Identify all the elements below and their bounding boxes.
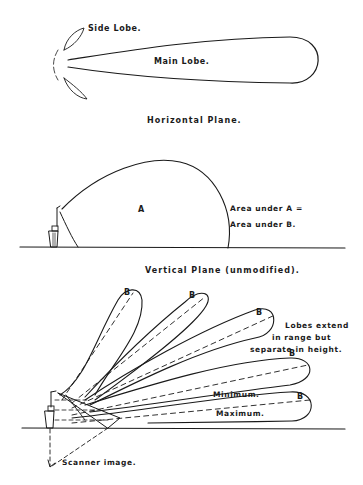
ground-line-2 <box>22 428 345 429</box>
side-lobe-label: Side Lobe. <box>88 24 141 33</box>
dome-a-outline <box>62 160 229 248</box>
lobe-2-axis <box>72 297 205 403</box>
lobe-5-axis <box>72 400 310 423</box>
lobe-label-b-1: B <box>124 288 131 297</box>
minimum-label: Minimum. <box>213 390 260 399</box>
horizontal-plane-caption: Horizontal Plane. <box>147 116 242 125</box>
lobes-note-line-3: separate in height. <box>250 345 342 354</box>
lobe-label-b-2: B <box>189 291 196 300</box>
lobe-2-outline <box>85 293 208 400</box>
scanner-image-label: Scanner image. <box>62 458 136 467</box>
maximum-label: Maximum. <box>216 409 265 418</box>
lobe-4-axis <box>72 365 308 415</box>
area-note-line-2: Area under B. <box>230 220 296 229</box>
lower-side-lobe <box>64 78 87 99</box>
upper-side-lobe <box>64 28 84 50</box>
main-lobe-label: Main Lobe. <box>154 57 209 66</box>
lobes-note-line-2: in range but <box>272 333 331 342</box>
scanner-icon-1 <box>49 206 60 247</box>
ground-line-1 <box>20 247 345 248</box>
diagram-drawing <box>0 0 363 485</box>
area-a-label: A <box>138 205 145 214</box>
lobe-label-b-3: B <box>256 308 263 317</box>
reflector-plate <box>58 393 120 428</box>
vertical-plane-caption: Vertical Plane (unmodified). <box>145 266 300 275</box>
lobe-label-b-5: B <box>297 392 304 401</box>
dome-a-inner-edge <box>60 212 78 247</box>
lobes-note-line-1: Lobes extend <box>285 321 349 330</box>
back-lobe-arc <box>54 50 59 80</box>
vertical-modified-pattern <box>22 290 345 467</box>
scanner-image-arrow <box>48 460 55 467</box>
area-note-line-1: Area under A = <box>230 204 303 213</box>
scanner-icon-2 <box>45 391 56 428</box>
radar-lobe-diagram: Side Lobe. Main Lobe. Horizontal Plane. … <box>0 0 363 485</box>
lobe-4-outline <box>85 358 310 412</box>
